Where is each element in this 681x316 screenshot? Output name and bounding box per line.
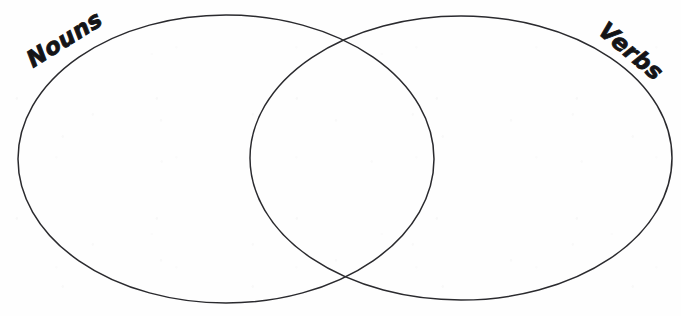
venn-diagram-canvas: Nouns Verbs [0, 0, 681, 316]
venn-circle-left [18, 15, 434, 303]
venn-circle-right [250, 16, 672, 300]
venn-diagram-page: Nouns Verbs [0, 0, 681, 316]
venn-label-nouns: Nouns [22, 6, 107, 73]
venn-label-verbs: Verbs [594, 17, 669, 86]
